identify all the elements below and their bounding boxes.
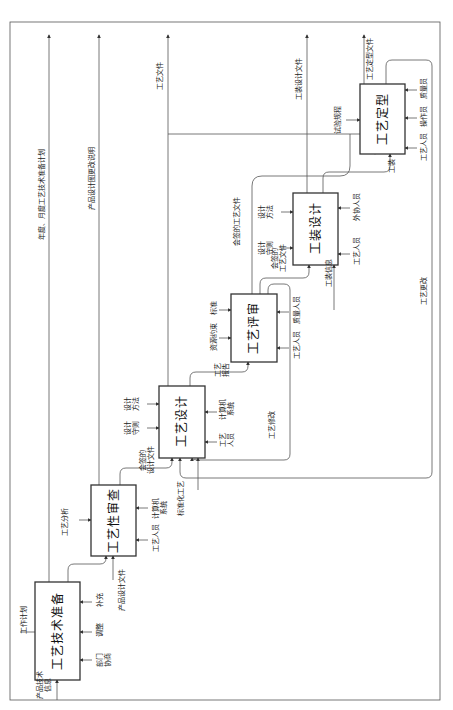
label-trial-rules: 试验规程 <box>334 102 342 138</box>
label-finalized-docs: 工艺定型文件 <box>366 20 374 80</box>
box-label-b6: 工艺定型 <box>376 84 390 154</box>
label-b5-methods: 设计 方法 <box>258 200 274 224</box>
label-b6-staff: 工艺人员 <box>420 130 428 164</box>
label-standards: 标准 <box>210 296 218 320</box>
label-adjust: 调整 <box>96 618 104 642</box>
label-operator: 操作员 <box>420 102 428 130</box>
label-product-tech-info: 产品技术 信息 <box>36 665 52 705</box>
label-design-rules: 设计 守则 <box>124 416 140 440</box>
label-tooling-info: 工装信息 <box>325 256 333 290</box>
label-external-staff: 外协人员 <box>353 190 361 224</box>
label-design-change: 产品设计图更改说明 <box>88 40 96 210</box>
label-b5-rules: 设计 守则 <box>258 236 274 260</box>
label-plan: 年度、月度工艺技术准备计划 <box>38 40 46 240</box>
label-b3-computer: 计算机 系统 <box>219 394 235 424</box>
label-process-revision: 工艺修改 <box>268 405 276 445</box>
label-b2-staff: 工艺人员 <box>152 522 160 554</box>
label-process-docs: 工艺文件 <box>156 40 164 90</box>
label-quality-staff: 质量人员 <box>293 293 301 327</box>
label-b4-staff: 工艺人员 <box>293 328 301 362</box>
label-dept-coord: 部门 协商 <box>96 648 112 672</box>
idef0-diagram: 工艺技术准备 工艺性审查 工艺设计 工艺评审 工装设计 工艺定型 年度、月度工艺… <box>0 0 453 710</box>
label-signed-process-docs-top: 会签的工艺文件 <box>233 188 241 254</box>
label-b5-staff: 工艺人员 <box>353 234 361 268</box>
box-label-b3: 工艺设计 <box>175 386 189 456</box>
label-process-analysis: 工艺分析 <box>61 502 69 542</box>
label-signed-design-docs: 会签的 设计文件 <box>139 440 155 480</box>
label-inspector: 质量员 <box>420 74 428 102</box>
label-design-methods: 设计 方法 <box>124 392 140 416</box>
label-process-change: 工艺更改 <box>420 274 428 308</box>
label-standardized-process: 标准化工艺 <box>177 476 185 520</box>
label-process-report: 工艺 报告 <box>214 358 230 382</box>
label-work-plan: 工作计划 <box>20 600 28 640</box>
box-label-b5: 工装设计 <box>309 192 323 264</box>
box-label-b4: 工艺评审 <box>247 294 261 362</box>
label-tooling-docs: 工装设计文件 <box>295 20 303 100</box>
label-product-design-docs: 产品设计文件 <box>118 560 126 620</box>
label-b2-computer: 计算机 系统 <box>152 492 168 524</box>
box-label-b2: 工艺性审查 <box>107 485 121 555</box>
label-tooling: 工装 <box>388 156 396 176</box>
label-resource-constraint: 资源约束 <box>210 319 218 355</box>
label-b3-staff: 工艺 人员 <box>219 428 235 452</box>
label-supplement: 补充 <box>96 588 104 612</box>
box-label-b1: 工艺技术准备 <box>51 586 65 676</box>
